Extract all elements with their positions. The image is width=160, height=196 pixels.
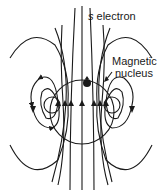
nucleus-label-line2: nucleus [112, 67, 157, 79]
field-line-inner-r1 [90, 8, 94, 190]
field-lines-svg [0, 0, 160, 196]
side-loop-left-mid [41, 89, 58, 119]
field-line-inner-l1 [70, 8, 75, 190]
nucleus-label-line1: Magnetic [112, 55, 157, 67]
electron-label-word: electron [97, 10, 136, 22]
electron-label: s electron [88, 10, 136, 22]
electron-label-prefix: s [88, 10, 94, 22]
side-loop-right-mid [106, 89, 123, 119]
side-loop-right-outer [105, 77, 133, 128]
magnetic-nucleus-diagram: s electron Magnetic nucleus [0, 0, 160, 196]
side-loop-left-outer [31, 77, 59, 128]
electron-dot [83, 76, 91, 87]
nucleus-label: Magnetic nucleus [112, 55, 157, 79]
arrow-down-left [30, 106, 36, 113]
field-line-outer-left-top [10, 37, 68, 102]
